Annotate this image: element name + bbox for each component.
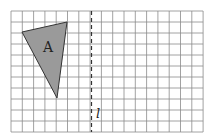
triangle-label: A bbox=[42, 39, 54, 55]
mirror-line-label: l bbox=[96, 106, 100, 121]
grid-diagram: A l bbox=[0, 0, 214, 138]
